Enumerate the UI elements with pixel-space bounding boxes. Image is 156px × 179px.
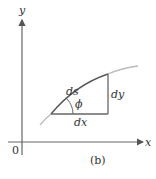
- curve-lower-extension: [40, 114, 51, 125]
- x-axis-label: x: [145, 136, 152, 149]
- angle-phi-arc: [67, 99, 73, 114]
- curve-upper-extension: [108, 66, 138, 74]
- ds-label: ds: [66, 85, 79, 98]
- y-axis-label: y: [18, 4, 26, 17]
- dx-label: dx: [74, 116, 88, 129]
- origin-label: 0: [12, 144, 19, 157]
- phi-label: ϕ: [75, 98, 83, 111]
- dy-label: dy: [111, 88, 125, 101]
- differential-arc-length-diagram: y x 0 ds dy dx ϕ (b): [0, 0, 156, 179]
- figure-caption: (b): [90, 154, 106, 167]
